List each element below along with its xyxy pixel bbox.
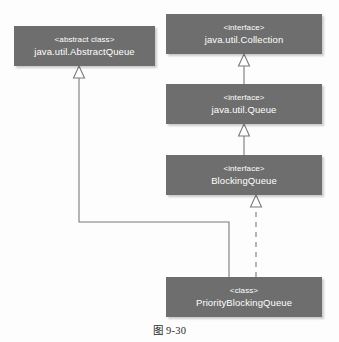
- uml-node-name: java.util.Collection: [205, 34, 284, 46]
- uml-node-stereotype: <interface>: [223, 23, 264, 33]
- hollow-triangle-arrowhead-icon: [239, 54, 250, 66]
- uml-node-queue[interactable]: <interface> java.util.Queue: [166, 84, 322, 124]
- uml-node-name: java.util.AbstractQueue: [34, 46, 135, 58]
- hollow-triangle-arrowhead-icon: [251, 195, 262, 207]
- uml-node-abstractqueue[interactable]: <abstract class> java.util.AbstractQueue: [14, 26, 155, 66]
- uml-node-stereotype: <abstract class>: [55, 35, 115, 45]
- uml-node-name: BlockingQueue: [211, 175, 277, 187]
- edge-priorityblockingqueue-to-blockingqueue: [251, 195, 262, 277]
- uml-node-stereotype: <interface>: [223, 164, 264, 174]
- uml-node-blockingqueue[interactable]: <interface> BlockingQueue: [166, 155, 322, 195]
- uml-node-stereotype: <class>: [230, 286, 258, 296]
- edge-blockingqueue-to-queue: [239, 124, 250, 155]
- uml-node-priorityblockingqueue[interactable]: <class> PriorityBlockingQueue: [166, 277, 322, 317]
- uml-node-name: java.util.Queue: [212, 104, 277, 116]
- hollow-triangle-arrowhead-icon: [74, 66, 85, 78]
- edge-queue-to-collection: [239, 54, 250, 84]
- uml-node-name: PriorityBlockingQueue: [196, 297, 292, 309]
- uml-node-stereotype: <interface>: [223, 93, 264, 103]
- figure-caption: 图 9-30: [0, 322, 339, 337]
- diagram-canvas: <abstract class> java.util.AbstractQueue…: [0, 0, 339, 342]
- uml-node-collection[interactable]: <interface> java.util.Collection: [166, 14, 322, 54]
- hollow-triangle-arrowhead-icon: [239, 124, 250, 136]
